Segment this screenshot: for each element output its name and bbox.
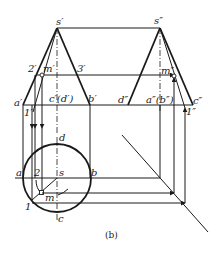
label-c-double-prime: c″ bbox=[193, 95, 203, 106]
label-b: b bbox=[91, 167, 97, 178]
label-a-b-double-prime: a″(b″) bbox=[146, 94, 174, 105]
label-3-prime: 3′ bbox=[77, 63, 86, 74]
label-c-d-prime: c′(d′) bbox=[49, 93, 73, 104]
label-m-double-prime: m″ bbox=[161, 65, 174, 76]
top-arc-m-right bbox=[58, 189, 68, 195]
label-a-prime: a′ bbox=[14, 97, 23, 108]
figure-caption: (b) bbox=[105, 230, 118, 240]
miter-line-45 bbox=[122, 135, 208, 232]
label-b-prime: b′ bbox=[88, 93, 97, 104]
label-s-double-prime: s″ bbox=[154, 15, 163, 26]
label-s-prime: s′ bbox=[56, 16, 64, 27]
label-2: 2 bbox=[33, 167, 40, 178]
label-m: m bbox=[45, 192, 54, 203]
cone-projection-diagram: s′ 2′ m′ 3′ a′ c′(d′) b′ 1′ s″ m″ d″ a″(… bbox=[0, 0, 222, 254]
label-1-double-prime: 1″ bbox=[186, 106, 196, 117]
label-1-prime: 1′ bbox=[24, 107, 33, 118]
label-a: a bbox=[16, 167, 22, 178]
front-view: s′ 2′ m′ 3′ a′ c′(d′) b′ 1′ bbox=[14, 16, 97, 200]
label-s: s bbox=[59, 167, 64, 178]
label-d: d bbox=[59, 132, 65, 143]
label-m-prime: m′ bbox=[43, 63, 55, 74]
label-c: c bbox=[58, 213, 64, 224]
label-1: 1 bbox=[25, 201, 31, 212]
side-view: s″ m″ d″ a″(b″) c″ 1″ bbox=[118, 15, 203, 203]
label-d-double-prime: d″ bbox=[118, 94, 128, 105]
label-2-prime: 2′ bbox=[27, 63, 37, 74]
